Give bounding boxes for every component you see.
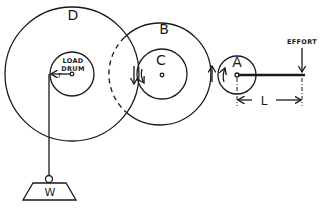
gear-d	[5, 7, 139, 141]
load-hook-ring	[46, 176, 53, 183]
rotation-arrow-a	[223, 68, 225, 82]
load-drum-label-1: LOAD	[63, 57, 84, 65]
load-label: W	[45, 186, 56, 199]
gear-c-axle	[160, 73, 164, 77]
effort-label: EFFORT	[287, 38, 317, 46]
winch-gear-diagram: D B C A LOAD DRUM r EFFORT L W	[0, 0, 321, 217]
gear-c-label: C	[156, 52, 166, 68]
gear-b-label: B	[159, 21, 169, 37]
load-drum-label-2: DRUM	[61, 65, 84, 73]
gear-a-label: A	[232, 54, 242, 70]
gear-b-hidden-arc	[109, 38, 124, 111]
lever-length-label: L	[261, 94, 268, 108]
gear-d-label: D	[68, 7, 79, 23]
rotation-arrow-c	[141, 69, 144, 83]
